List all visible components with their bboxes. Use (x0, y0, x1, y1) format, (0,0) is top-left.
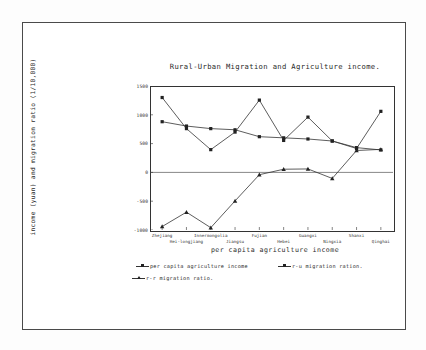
legend-item: r-r migration ratio. (132, 275, 213, 281)
y-tick-label: 1000 (137, 113, 148, 118)
chart-legend: per capita agriculture incomer-u migrati… (128, 262, 408, 288)
y-axis-tick-labels: 150010005000-500-1000 (118, 80, 148, 236)
chart-title: Rural-Urban Migration and Agriculture in… (150, 62, 400, 71)
legend-label: r-u migration ration. (292, 263, 363, 269)
x-tick-label: Innermongolia (194, 233, 228, 238)
x-tick-label: Qinghai (364, 239, 398, 244)
y-tick-label: 500 (139, 141, 148, 146)
triangle-marker-icon (132, 276, 145, 281)
x-tick-label: Fujian (242, 233, 276, 238)
y-axis-title: income (yuan) and migration ratio (1/10,… (29, 76, 36, 236)
x-tick-label: Zhejiang (145, 233, 179, 238)
legend-item: per capita agriculture income (136, 263, 248, 269)
screenshot-root: Rural-Urban Migration and Agriculture in… (0, 0, 426, 350)
x-tick-label: Guangxi (291, 233, 325, 238)
square-marker-icon (136, 264, 149, 269)
x-tick-label: Hei-longjiang (169, 239, 203, 244)
x-tick-label: Ningxia (315, 239, 349, 244)
y-tick-label: -500 (137, 199, 148, 204)
x-tick-label: Jiangsu (218, 239, 252, 244)
plot-lines (150, 86, 393, 230)
legend-label: r-r migration ratio. (146, 275, 213, 281)
square-marker-icon (278, 264, 291, 269)
x-tick-label: Shanxi (340, 233, 374, 238)
legend-item: r-u migration ration. (278, 263, 363, 269)
x-tick-label: Hebei (267, 239, 301, 244)
legend-label: per capita agriculture income (150, 263, 248, 269)
y-tick-label: 0 (145, 170, 148, 175)
y-tick-label: 1500 (137, 84, 148, 89)
x-axis-title: per capita agriculture income (150, 246, 400, 254)
